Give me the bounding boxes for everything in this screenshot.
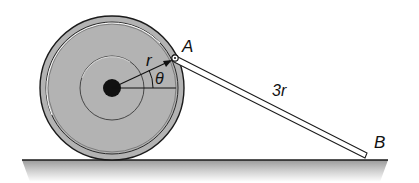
ground [22,160,388,182]
label-theta: θ [155,70,164,87]
label-rod-length: 3r [272,82,287,99]
mechanism-diagram: A r θ 3r B [0,0,419,183]
connecting-rod [172,55,367,158]
label-b: B [374,133,385,152]
label-a: A [181,37,193,56]
